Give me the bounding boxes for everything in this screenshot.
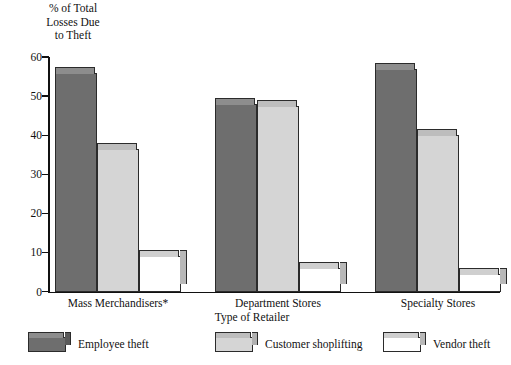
bar [139, 256, 181, 291]
bar-side-face [180, 250, 187, 283]
legend-swatch-top-face [28, 332, 64, 338]
category-label: Specialty Stores [350, 297, 511, 310]
bar-top-face [139, 250, 179, 257]
y-tick-mark [42, 174, 49, 175]
legend-swatch [215, 337, 253, 352]
legend-swatch [28, 337, 66, 352]
bar-top-face [459, 268, 499, 275]
bar [257, 106, 299, 292]
bar-top-face [375, 63, 415, 70]
bar-top-face [417, 129, 457, 136]
y-tick-mark [42, 95, 49, 96]
y-axis-title: % of Total Losses Due to Theft [18, 2, 128, 43]
bar-side-face [340, 262, 347, 283]
x-axis-line [48, 292, 500, 294]
legend-swatch-side-face [420, 332, 426, 345]
legend-swatch-top-face [383, 332, 419, 338]
bar [299, 268, 341, 291]
bar [55, 73, 97, 292]
legend-swatch-top-face [215, 332, 251, 338]
y-tick-label: 30 [8, 168, 42, 180]
y-tick-label: 20 [8, 207, 42, 219]
y-tick-mark [42, 135, 49, 136]
bar-top-face [257, 100, 297, 107]
bar-top-face [215, 98, 255, 105]
bar-side-face [500, 268, 507, 284]
bar [459, 274, 501, 292]
bar [417, 135, 459, 291]
legend-label: Employee theft [78, 337, 149, 352]
y-tick-label: 0 [8, 286, 42, 298]
chart-legend: Employee theftCustomer shopliftingVendor… [0, 331, 504, 361]
y-tick-mark [42, 291, 49, 292]
legend-label: Vendor theft [433, 337, 490, 352]
y-tick-mark [42, 213, 49, 214]
plot-area: 0102030405060 Mass Merchandisers*Departm… [48, 57, 500, 293]
bar-top-face [55, 67, 95, 74]
legend-swatch-side-face [252, 332, 258, 345]
bar-top-face [299, 262, 339, 269]
category-label: Mass Merchandisers* [30, 297, 206, 310]
y-tick-label: 50 [8, 90, 42, 102]
y-tick-label: 40 [8, 129, 42, 141]
y-axis-line [48, 57, 50, 293]
y-tick-label: 10 [8, 246, 42, 258]
bar [215, 104, 257, 292]
legend-swatch [383, 337, 421, 352]
y-tick-mark [42, 56, 49, 57]
bar [375, 69, 417, 292]
y-tick-mark [42, 252, 49, 253]
bar-top-face [97, 143, 137, 150]
legend-swatch-side-face [65, 332, 71, 345]
category-label: Department Stores [190, 297, 366, 310]
bar [97, 149, 139, 292]
y-tick-label: 60 [8, 51, 42, 63]
legend-label: Customer shoplifting [265, 337, 362, 352]
x-axis-title: Type of Retailer [0, 311, 504, 323]
